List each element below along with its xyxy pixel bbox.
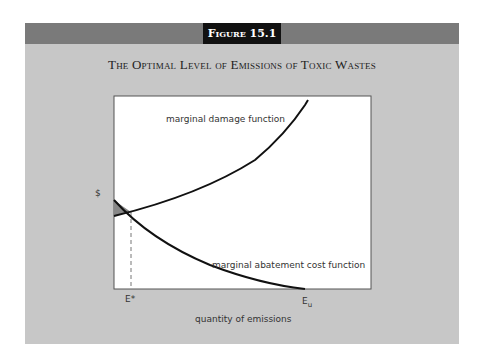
damage-label: marginal damage function: [166, 114, 285, 124]
x-axis-label: quantity of emissions: [195, 314, 292, 324]
y-axis-label: $: [95, 188, 101, 198]
x-tick-eu: Eu: [302, 296, 312, 309]
x-tick-estar: E*: [125, 294, 136, 304]
chart: marginal damage function marginal abatem…: [0, 0, 480, 363]
abatement-label: marginal abatement cost function: [212, 260, 365, 270]
